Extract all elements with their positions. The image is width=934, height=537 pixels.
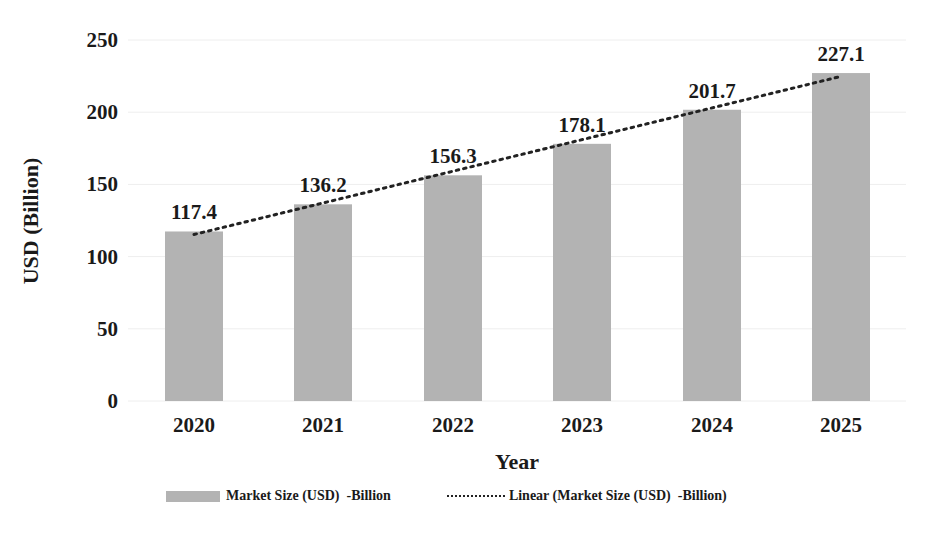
- bars: [165, 73, 870, 401]
- gridlines: [128, 40, 906, 401]
- y-tick-label: 200: [87, 100, 119, 124]
- x-category-label: 2022: [432, 413, 474, 437]
- bar: [553, 144, 611, 401]
- y-tick-label: 150: [87, 172, 119, 196]
- bar: [683, 110, 741, 401]
- dotted-line-swatch-icon: [447, 495, 505, 497]
- bar: [424, 175, 482, 401]
- y-axis-ticks: 050100150200250: [87, 28, 119, 413]
- bar: [812, 73, 870, 401]
- x-category-label: 2024: [691, 413, 734, 437]
- x-category-label: 2025: [820, 413, 862, 437]
- linear-trendline: [194, 76, 841, 234]
- bar-chart: 050100150200250 117.4136.2156.3178.1201.…: [0, 0, 934, 537]
- data-label: 227.1: [817, 42, 864, 66]
- y-tick-label: 100: [87, 245, 119, 269]
- y-tick-label: 250: [87, 28, 119, 52]
- data-label: 117.4: [171, 200, 218, 224]
- legend-item-bar: Market Size (USD) -Billion: [166, 488, 391, 504]
- bar: [294, 204, 352, 401]
- legend-line-label: Linear (Market Size (USD) -Billion): [509, 488, 727, 504]
- x-category-label: 2023: [561, 413, 603, 437]
- x-category-label: 2020: [173, 413, 215, 437]
- data-label: 156.3: [429, 144, 476, 168]
- y-tick-label: 0: [108, 389, 119, 413]
- legend-bar-label: Market Size (USD) -Billion: [226, 488, 391, 504]
- data-label: 178.1: [558, 113, 605, 137]
- x-axis-title: Year: [495, 449, 539, 474]
- data-labels: 117.4136.2156.3178.1201.7227.1: [171, 42, 865, 224]
- x-axis-categories: 202020212022202320242025: [173, 413, 862, 437]
- bar-swatch-icon: [166, 491, 220, 502]
- y-tick-label: 50: [97, 317, 118, 341]
- bar: [165, 231, 223, 401]
- legend: Market Size (USD) -Billion Linear (Marke…: [166, 488, 727, 504]
- data-label: 201.7: [688, 79, 735, 103]
- legend-item-trendline: Linear (Market Size (USD) -Billion): [447, 488, 727, 504]
- data-label: 136.2: [299, 173, 346, 197]
- x-category-label: 2021: [302, 413, 344, 437]
- y-axis-title: USD (Billion): [18, 158, 43, 285]
